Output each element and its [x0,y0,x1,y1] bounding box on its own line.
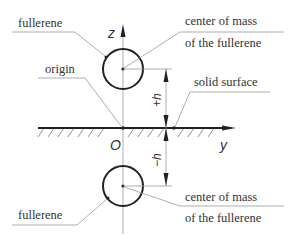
surface-hatching [38,128,214,137]
z-axis-arrow-icon [121,24,126,37]
y-axis-label: y [219,137,228,153]
fullerene-diagram: z y O +h −h fullerene ori [0,0,292,236]
origin-axis-label: O [110,137,121,153]
bottom-center-label-line1: center of mass [185,190,257,204]
origin-label: origin [45,62,76,76]
y-axis-arrow-icon [222,126,236,131]
top-fullerene-leader-dot [105,56,108,59]
z-axis-label: z [107,25,115,41]
plus-h-label: +h [150,93,164,107]
minus-h-top-arrow-icon [164,128,169,141]
origin-leader [38,78,121,126]
minus-h-label: −h [150,153,164,167]
top-fullerene-label: fullerene [18,16,63,30]
bottom-center-label-line2: of the fullerene [185,211,262,225]
top-fullerene-leader [12,32,105,56]
solid-surface-label: solid surface [194,75,258,89]
bottom-fullerene-leader-dot [107,197,110,200]
top-center-label-line2: of the fullerene [185,36,262,50]
origin-dot [121,126,125,130]
bottom-fullerene-label: fullerene [18,208,63,222]
solid-surface-leader [175,92,270,127]
top-center-label-line1: center of mass [185,14,257,28]
plus-h-bottom-arrow-icon [164,115,169,128]
plus-h-top-arrow-icon [164,69,169,82]
minus-h-bottom-arrow-icon [164,173,169,186]
